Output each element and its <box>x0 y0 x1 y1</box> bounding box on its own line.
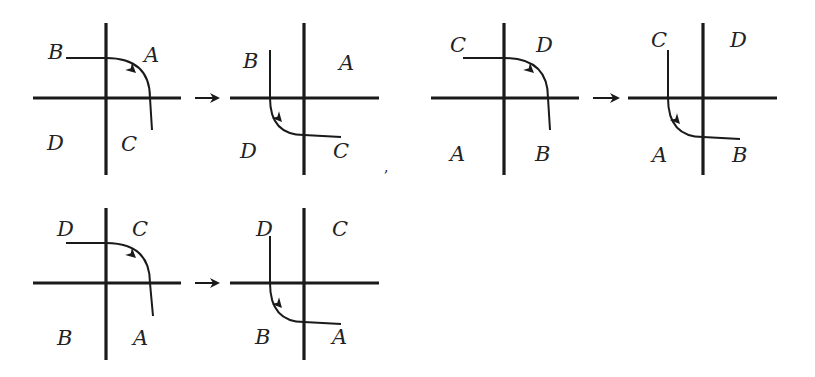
panel-p5: DCBA <box>33 208 181 360</box>
quadrant-label-top-right: D <box>729 28 747 52</box>
panel-p4: CDAB <box>628 23 777 175</box>
quadrant-label-top-right: C <box>332 217 348 241</box>
quadrant-label-bottom-right: A <box>131 326 148 350</box>
transition-arrow <box>195 278 220 288</box>
quadrant-label-bottom-right: C <box>333 139 349 163</box>
quadrant-label-bottom-left: B <box>56 326 72 350</box>
arrowhead-icon <box>670 113 684 127</box>
quadrant-label-bottom-right: A <box>330 325 347 349</box>
turning-path <box>66 243 153 316</box>
quadrant-label-bottom-left: D <box>239 139 257 163</box>
panel-p1: BADC <box>33 23 181 175</box>
quadrant-label-bottom-left: A <box>448 142 465 166</box>
quadrant-label-top-right: A <box>337 51 354 75</box>
quadrant-label-top-left: D <box>255 217 273 241</box>
arrowhead-icon <box>523 63 537 77</box>
panel-p2: BADC <box>230 23 379 175</box>
quadrant-label-top-right: C <box>132 217 148 241</box>
panels-group: BADCBADCCDABCDABDCBADCBA <box>33 23 777 360</box>
quadrant-label-bottom-right: C <box>121 132 137 156</box>
panel-p3: CDAB <box>431 23 579 175</box>
stray-comma-mark: , <box>384 159 388 175</box>
quadrant-label-top-left: D <box>56 217 74 241</box>
arrowhead-icon <box>272 111 286 125</box>
quadrant-label-bottom-right: B <box>731 143 747 167</box>
quadrant-label-top-left: C <box>450 33 466 57</box>
transition-arrow <box>195 93 220 103</box>
panel-p6: DCBA <box>230 208 379 360</box>
quadrant-label-bottom-left: A <box>650 143 667 167</box>
arrowhead-icon <box>272 297 286 311</box>
quadrant-label-bottom-right: B <box>534 142 550 166</box>
quadrant-label-top-right: A <box>142 43 159 67</box>
quadrant-label-top-left: B <box>242 49 258 73</box>
transition-arrow <box>593 93 620 103</box>
turning-path <box>463 58 550 130</box>
turning-path <box>66 58 152 130</box>
stray-mark-group: , <box>384 159 388 175</box>
quadrant-label-bottom-left: D <box>46 131 64 155</box>
quadrant-label-top-left: B <box>47 40 63 64</box>
arrowhead-icon <box>125 248 139 262</box>
quadrant-label-bottom-left: B <box>254 325 270 349</box>
quadrant-label-top-left: C <box>651 28 667 52</box>
quadrant-rotation-diagram: BADCBADCCDABCDABDCBADCBA , <box>0 0 815 377</box>
arrowhead-icon <box>125 63 139 77</box>
transition-arrows-group <box>195 93 620 288</box>
quadrant-label-top-right: D <box>535 33 553 57</box>
